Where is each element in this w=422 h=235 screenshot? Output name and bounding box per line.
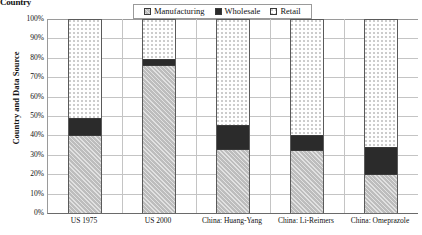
bar-slot bbox=[48, 19, 122, 213]
bar-series-group bbox=[48, 19, 418, 213]
bar-segment-manufacturing[interactable] bbox=[365, 175, 397, 213]
bar-slot bbox=[196, 19, 270, 213]
bar-segment-wholesale[interactable] bbox=[143, 59, 175, 67]
legend-swatch-wholesale-icon bbox=[215, 8, 222, 15]
bar-segment-manufacturing[interactable] bbox=[217, 150, 249, 213]
y-tick-label: 30% bbox=[20, 151, 44, 159]
x-tick-label: China: Huang-Yang bbox=[195, 216, 269, 232]
bar-segment-retail[interactable] bbox=[217, 20, 249, 125]
chart-legend: ManufacturingWholesaleRetail bbox=[133, 4, 312, 19]
y-tick-label: 100% bbox=[20, 15, 44, 23]
stacked-bar[interactable] bbox=[290, 19, 324, 213]
y-tick-label: 40% bbox=[20, 131, 44, 139]
y-tick-label: 50% bbox=[20, 112, 44, 120]
bar-segment-manufacturing[interactable] bbox=[291, 151, 323, 213]
chart-canvas: Country and Data Source 100%90%80%70%60%… bbox=[0, 19, 422, 235]
legend-item-retail[interactable]: Retail bbox=[270, 7, 300, 16]
plot-area bbox=[47, 19, 418, 214]
bar-segment-manufacturing[interactable] bbox=[143, 66, 175, 213]
legend-swatch-retail-icon bbox=[270, 8, 277, 15]
x-tick-label: US 2000 bbox=[121, 216, 195, 232]
stacked-bar[interactable] bbox=[364, 19, 398, 213]
stacked-bar[interactable] bbox=[68, 19, 102, 213]
bar-segment-retail[interactable] bbox=[69, 20, 101, 118]
legend-item-manufacturing[interactable]: Manufacturing bbox=[144, 7, 205, 16]
bar-segment-retail[interactable] bbox=[365, 20, 397, 147]
y-tick-label: 70% bbox=[20, 73, 44, 81]
bar-slot bbox=[344, 19, 418, 213]
stacked-bar[interactable] bbox=[142, 19, 176, 213]
legend-item-wholesale[interactable]: Wholesale bbox=[215, 7, 261, 16]
bar-segment-wholesale[interactable] bbox=[365, 147, 397, 175]
x-tick-label: China: Omeprazole bbox=[343, 216, 417, 232]
y-tick-label: 80% bbox=[20, 54, 44, 62]
cut-off-header-text: Country bbox=[0, 0, 62, 7]
bar-segment-retail[interactable] bbox=[143, 20, 175, 59]
x-axis-tick-labels: US 1975US 2000China: Huang-YangChina: Li… bbox=[47, 216, 417, 232]
x-tick-label: US 1975 bbox=[47, 216, 121, 232]
bar-segment-wholesale[interactable] bbox=[217, 125, 249, 150]
bar-slot bbox=[270, 19, 344, 213]
legend-label: Wholesale bbox=[225, 7, 261, 16]
y-tick-label: 90% bbox=[20, 34, 44, 42]
y-axis-tick-labels: 100%90%80%70%60%50%40%30%20%10%0% bbox=[20, 19, 44, 213]
bar-segment-wholesale[interactable] bbox=[69, 118, 101, 135]
y-tick-label: 10% bbox=[20, 190, 44, 198]
stacked-bar[interactable] bbox=[216, 19, 250, 213]
y-tick-label: 60% bbox=[20, 93, 44, 101]
y-tick-label: 0% bbox=[20, 209, 44, 217]
legend-label: Retail bbox=[280, 7, 300, 16]
y-tick-label: 20% bbox=[20, 170, 44, 178]
bar-segment-retail[interactable] bbox=[291, 20, 323, 135]
legend-swatch-manufacturing-icon bbox=[144, 8, 151, 15]
bar-segment-manufacturing[interactable] bbox=[69, 136, 101, 213]
bar-segment-wholesale[interactable] bbox=[291, 135, 323, 151]
x-tick-label: China: Li-Reimers bbox=[269, 216, 343, 232]
bar-slot bbox=[122, 19, 196, 213]
legend-label: Manufacturing bbox=[154, 7, 205, 16]
